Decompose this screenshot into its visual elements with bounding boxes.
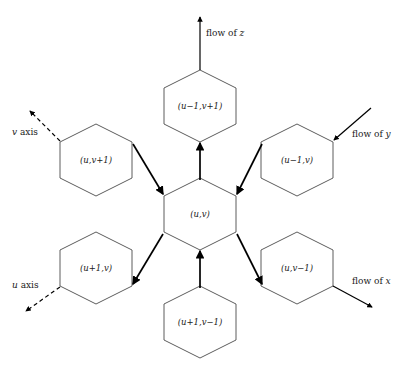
- u-axis-label: u axis: [12, 280, 39, 290]
- u-axis-arrow: [26, 287, 60, 311]
- hexagon-lower-left: (u+1,v): [60, 232, 132, 304]
- hexagon-upper-left-label: (u,v+1): [80, 155, 112, 165]
- arrow-upper-left-to-center: [133, 144, 163, 194]
- hexagon-center-label: (u,v): [190, 209, 210, 219]
- arrow-center-to-lower-left: [133, 234, 163, 284]
- flow-z-label: flow of z: [206, 28, 245, 38]
- hexagon-lower-right-label: (u,v−1): [281, 263, 313, 273]
- hexagon-down-label: (u+1,v−1): [178, 317, 223, 327]
- u-axis-var: u: [12, 280, 18, 290]
- hexagon-lower-left-label: (u+1,v): [80, 263, 112, 273]
- arrow-center-to-lower-right: [237, 234, 262, 284]
- hexagon-upper-left: (u,v+1): [60, 124, 132, 196]
- hexagon-up-label: (u−1,v+1): [178, 101, 223, 111]
- flow-x-var: x: [386, 276, 391, 286]
- flow-z-var: z: [239, 28, 245, 38]
- hexagon-center: (u,v): [164, 178, 236, 250]
- flow-x-arrow: [333, 286, 372, 307]
- flow-y-var: y: [385, 129, 392, 139]
- hexagon-down: (u+1,v−1): [164, 286, 236, 358]
- flow-y-label: flow of y: [352, 129, 392, 139]
- v-axis-label: v axis: [12, 127, 38, 137]
- hexagon-up: (u−1,v+1): [164, 70, 236, 142]
- arrow-upper-right-to-center: [237, 144, 262, 194]
- hexagon-lower-right: (u,v−1): [261, 232, 333, 304]
- hexagon-upper-right-label: (u−1,v): [281, 155, 313, 165]
- hex-flow-diagram: (u,v) (u−1,v+1) (u,v+1) (u−1,v) (u+1,v) …: [0, 0, 411, 367]
- hexagon-upper-right: (u−1,v): [261, 124, 333, 196]
- v-axis-var: v: [12, 127, 17, 137]
- flow-x-label: flow of x: [352, 276, 391, 286]
